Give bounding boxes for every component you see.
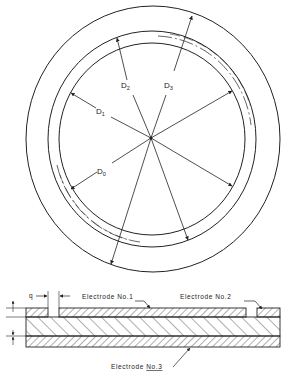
label-d2: D2 bbox=[121, 81, 130, 91]
electrode-3-label: Electrode No.3 bbox=[111, 363, 162, 370]
electrode-1-left bbox=[26, 308, 48, 317]
cross-section bbox=[6, 291, 280, 367]
electrode-1 bbox=[59, 308, 246, 317]
d1-line-b bbox=[71, 93, 96, 108]
d3-line-b bbox=[174, 16, 192, 71]
electrode-diagram: D0 D1 D2 D3 q Electrode N bbox=[0, 0, 292, 379]
d3-line-a bbox=[151, 95, 166, 138]
d0-line-a bbox=[112, 138, 151, 163]
d0-line-b bbox=[71, 172, 97, 189]
label-d0: D0 bbox=[97, 167, 106, 177]
d2-line-c bbox=[151, 138, 188, 240]
substrate bbox=[26, 317, 280, 336]
label-d3: D3 bbox=[164, 81, 173, 91]
electrode-2 bbox=[257, 308, 280, 317]
d0-line-c bbox=[151, 91, 232, 138]
label-d1: D1 bbox=[96, 107, 105, 117]
gap-arc-upper bbox=[158, 36, 251, 125]
gap-arc-upper-2 bbox=[170, 34, 250, 105]
electrode-2-label: Electrode No.2 bbox=[180, 293, 231, 300]
leader-electrode-1 bbox=[135, 301, 150, 308]
d2-line-b bbox=[117, 38, 127, 80]
electrode-1-label: Electrode No.1 bbox=[82, 293, 133, 300]
d1-line-c bbox=[151, 138, 232, 186]
electrode-3 bbox=[26, 336, 280, 347]
gap-arc-lower bbox=[57, 165, 140, 242]
plan-view bbox=[26, 6, 280, 272]
d2-line-a bbox=[133, 95, 151, 138]
gap-label: q bbox=[29, 292, 33, 300]
leader-electrode-3 bbox=[173, 348, 190, 367]
center-point bbox=[150, 137, 153, 140]
d1-line-a bbox=[111, 117, 151, 138]
